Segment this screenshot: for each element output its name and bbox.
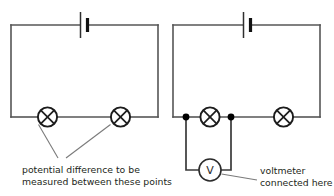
voltmeter-label-line2: connected here — [260, 177, 333, 188]
lamp-icon — [111, 107, 130, 126]
voltmeter-label-line1: voltmeter — [260, 165, 306, 176]
lamp-icon — [274, 107, 293, 126]
voltmeter-letter: V — [206, 164, 214, 177]
voltmeter-leader-line — [222, 174, 258, 180]
circuit-right: V voltmeter connected here — [173, 12, 333, 188]
voltmeter-icon: V — [199, 159, 221, 181]
circuit-diagram-figure: potential difference to be measured betw… — [0, 0, 334, 196]
lamp-icon — [38, 107, 57, 126]
potential-difference-label-line2: measured between these points — [22, 176, 172, 187]
circuit-left: potential difference to be measured betw… — [11, 12, 172, 187]
battery-icon — [81, 12, 88, 38]
battery-icon — [244, 12, 251, 38]
junction-dot-icon — [228, 114, 235, 121]
junction-dot-icon — [183, 114, 190, 121]
lamp-icon — [200, 107, 219, 126]
potential-difference-leader-lines — [39, 125, 111, 159]
potential-difference-label-line1: potential difference to be — [22, 164, 140, 175]
